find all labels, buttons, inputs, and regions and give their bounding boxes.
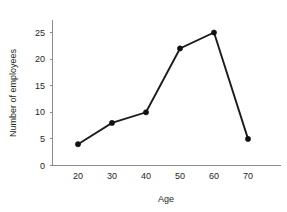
data-point-age-20 — [75, 142, 80, 147]
x-tick-label-70: 70 — [243, 171, 253, 181]
x-axis-title: Age — [158, 194, 174, 204]
data-point-age-30 — [109, 120, 114, 125]
y-tick-label-20: 20 — [35, 54, 45, 64]
data-point-age-70 — [245, 136, 250, 141]
chart-container: 0 5 10 15 20 25 20 30 40 50 60 70 Age Nu… — [0, 0, 287, 212]
x-tick-label-40: 40 — [141, 171, 151, 181]
y-tick-label-10: 10 — [35, 107, 45, 117]
x-tick-label-20: 20 — [73, 171, 83, 181]
y-axis-title: Number of employees — [8, 48, 18, 137]
y-tick-label-0: 0 — [40, 161, 45, 171]
x-tick-label-30: 30 — [107, 171, 117, 181]
x-tick-label-50: 50 — [175, 171, 185, 181]
x-tick-label-60: 60 — [209, 171, 219, 181]
y-tick-label-25: 25 — [35, 28, 45, 38]
line-chart: 0 5 10 15 20 25 20 30 40 50 60 70 Age Nu… — [0, 0, 287, 212]
data-point-age-40 — [143, 110, 148, 115]
data-point-age-60 — [211, 30, 216, 35]
data-point-age-50 — [177, 46, 182, 51]
y-tick-label-5: 5 — [40, 134, 45, 144]
y-tick-label-15: 15 — [35, 81, 45, 91]
